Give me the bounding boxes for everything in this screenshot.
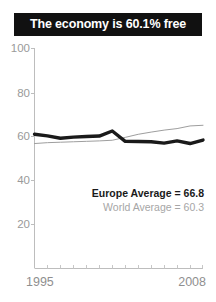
chart-title-banner: The economy is 60.1% free [14, 13, 202, 36]
chart-legend: Europe Average = 66.8 World Average = 60… [92, 186, 204, 215]
y-tick-label-20: 20 [4, 219, 30, 231]
y-tick-label-100: 100 [4, 43, 30, 55]
y-tick-label-40: 40 [4, 175, 30, 187]
series-line-europe [35, 131, 204, 144]
legend-entry-world: World Average = 60.3 [92, 200, 204, 214]
page-title: The economy is 60.1% free [30, 18, 186, 31]
x-tick-label-end: 2008 [178, 276, 206, 289]
y-tick-marks [31, 49, 35, 225]
y-tick-label-60: 60 [4, 131, 30, 143]
plot-canvas [0, 40, 216, 280]
y-tick-label-80: 80 [4, 88, 30, 100]
x-axis-labels: 1995 2008 [0, 276, 216, 296]
economic-freedom-chart: The economy is 60.1% free [0, 0, 216, 302]
legend-entry-europe: Europe Average = 66.8 [92, 186, 204, 200]
y-axis-labels: 100 80 60 40 20 [3, 40, 30, 280]
plot-area [0, 40, 216, 280]
x-tick-marks [48, 265, 203, 269]
x-tick-label-start: 1995 [26, 276, 54, 289]
